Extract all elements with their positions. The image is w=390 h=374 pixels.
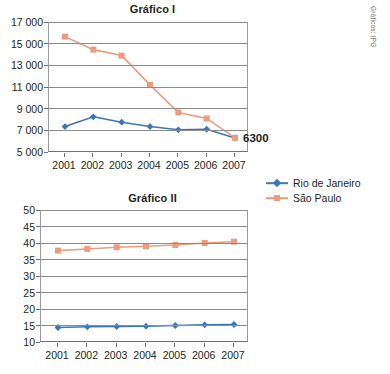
x-axis-tick-mark [116,343,117,347]
y-axis-tick-label: 10 [23,336,35,348]
x-axis-tick-label: 2003 [104,349,127,361]
y-axis-tick-mark [36,292,40,293]
data-point-marker [90,47,96,53]
y-axis-tick-label: 50 [23,204,35,216]
data-point-marker [90,113,97,120]
x-axis-tick-mark [233,343,234,347]
y-axis-tick-label: 7 000 [17,124,43,136]
x-axis-tick-label: 2004 [137,159,160,171]
legend-item-label: Rio de Janeiro [293,177,361,189]
x-axis-tick-mark [145,343,146,347]
x-axis-tick-label: 2006 [192,349,215,361]
y-axis-tick-mark [36,325,40,326]
x-axis-tick-mark [92,153,93,157]
y-axis-tick-mark [44,152,48,153]
data-point-marker [62,34,68,40]
gridline [41,210,247,211]
y-axis-tick-label: 13 000 [11,59,43,71]
x-axis-tick-mark [206,153,207,157]
y-axis-tick-mark [44,43,48,44]
y-axis-tick-label: 45 [23,221,35,233]
y-axis-tick-mark [36,309,40,310]
y-axis-tick-label: 35 [23,254,35,266]
y-axis-tick-mark [44,130,48,131]
credit-label: Gráficos: IPG [370,6,377,48]
y-axis-tick-mark [36,342,40,343]
x-axis-tick-label: 2007 [221,349,244,361]
gridline [49,43,247,44]
y-axis-tick-mark [36,259,40,260]
chart-i-plot-area [48,22,248,152]
legend-swatch-icon [266,193,288,203]
chart-i-title: Gráfico I [40,3,265,15]
x-axis-tick-mark [121,153,122,157]
y-axis-tick-mark [44,65,48,66]
gridline [49,130,247,131]
data-point-marker [84,246,90,252]
x-axis-tick-label: 2005 [163,349,186,361]
y-axis-tick-mark [44,87,48,88]
gridline [41,226,247,227]
x-axis-tick-label: 2001 [45,349,68,361]
y-axis-tick-mark [36,243,40,244]
data-point-marker [232,135,238,141]
legend-item-label: São Paulo [293,192,341,204]
y-axis-tick-label: 25 [23,287,35,299]
x-axis-tick-mark [86,343,87,347]
value-annotation: 6300 [243,132,269,144]
y-axis-tick-mark [36,210,40,211]
y-axis-tick-label: 9 000 [17,103,43,115]
gridline [41,243,247,244]
data-point-marker [204,115,210,121]
chart-grafico-i: Gráfico I 5 0007 0009 00011 00013 00015 … [0,0,270,182]
y-axis-tick-label: 17 000 [11,16,43,28]
y-axis-tick-mark [36,276,40,277]
gridline [41,292,247,293]
y-axis-tick-label: 11 000 [12,81,43,93]
data-point-marker [143,243,149,249]
figure-page: Gráfico I 5 0007 0009 00011 00013 00015 … [0,0,390,374]
data-point-marker [55,248,61,254]
gridline [41,309,247,310]
x-axis-tick-label: 2002 [81,159,104,171]
data-point-marker [114,244,120,250]
legend-swatch-icon [266,178,288,188]
gridline [49,108,247,109]
y-axis-tick-label: 15 000 [11,38,43,50]
x-axis-tick-label: 2003 [109,159,132,171]
y-axis-tick-mark [44,22,48,23]
y-axis-tick-label: 40 [23,237,35,249]
x-axis-tick-mark [57,343,58,347]
data-point-marker [119,53,125,59]
x-axis-tick-label: 2005 [166,159,189,171]
data-point-marker [143,323,150,330]
gridline [49,87,247,88]
x-axis-tick-mark [64,153,65,157]
x-axis-tick-mark [174,343,175,347]
legend-item-rio-de-janeiro[interactable]: Rio de Janeiro [266,177,361,189]
y-axis-tick-label: 30 [23,270,35,282]
x-axis-tick-mark [204,343,205,347]
chart-ii-plot-area [40,210,248,342]
chart-legend: Rio de JaneiroSão Paulo [266,177,361,204]
x-axis-tick-mark [149,153,150,157]
y-axis-tick-mark [44,108,48,109]
x-axis-tick-mark [234,153,235,157]
data-point-marker [118,119,125,126]
x-axis-tick-label: 2004 [133,349,156,361]
x-axis-tick-mark [177,153,178,157]
gridline [49,22,247,23]
chart-ii-title: Gráfico II [40,192,265,204]
x-axis-tick-label: 2001 [52,159,75,171]
y-axis-tick-label: 15 [23,320,35,332]
gridline [41,276,247,277]
gridline [41,325,247,326]
x-axis-tick-label: 2007 [222,159,245,171]
y-axis-tick-mark [36,226,40,227]
legend-item-são-paulo[interactable]: São Paulo [266,192,361,204]
gridline [49,65,247,66]
chart-grafico-ii: Gráfico II 10152025303540455020012002200… [0,190,280,374]
y-axis-tick-label: 5 000 [17,146,43,158]
x-axis-tick-label: 2006 [194,159,217,171]
gridline [41,259,247,260]
